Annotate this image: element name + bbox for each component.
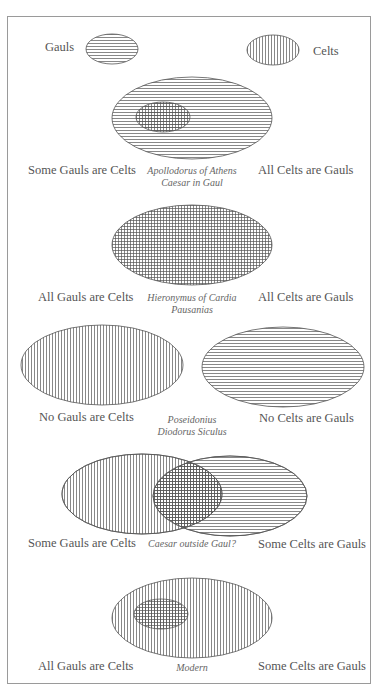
panel1-left-label: Some Gauls are Celts [28, 163, 136, 178]
panel2-sources: Hieronymus of Cardia Pausanias [146, 292, 238, 316]
panel2-source-1: Hieronymus of Cardia [146, 292, 238, 304]
panel2-source-2: Pausanias [146, 304, 238, 316]
panel2-left-label: All Gauls are Celts [38, 290, 133, 305]
panel1-right-label: All Celts are Gauls [258, 163, 353, 178]
panel3-source-2: Diodorus Siculus [146, 426, 238, 438]
panel3-right-label: No Celts are Gauls [259, 411, 354, 426]
gauls-legend-label: Gauls [45, 40, 74, 55]
panel4-source-1: Caesar outside Gaul? [140, 538, 244, 550]
panel5-gauls-ellipse [134, 599, 188, 629]
panel1-source-1: Apollodorus of Athens [146, 165, 238, 177]
panel4-sources: Caesar outside Gaul? [140, 538, 244, 550]
panel3-gauls-ellipse [202, 327, 364, 407]
celts-legend-ellipse [247, 35, 299, 65]
panel5-right-label: Some Celts are Gauls [258, 659, 366, 674]
panel1-celts-ellipse [136, 102, 190, 132]
panel3-sources: Poseidonius Diodorus Siculus [146, 414, 238, 438]
panel4-right-label: Some Celts are Gauls [258, 537, 366, 552]
panel4-left-label: Some Gauls are Celts [28, 536, 136, 551]
panel3-left-label: No Gauls are Celts [39, 410, 134, 425]
panel2-right-label: All Celts are Gauls [258, 290, 353, 305]
panel1-source-2: Caesar in Gaul [146, 177, 238, 189]
panel5-sources: Modern [146, 662, 238, 674]
panel5-source-1: Modern [146, 662, 238, 674]
venn-diagrams [0, 0, 383, 696]
panel2-combined-ellipse [112, 205, 272, 285]
panel3-celts-ellipse [21, 325, 183, 405]
gauls-legend-ellipse [86, 34, 138, 64]
panel3-source-1: Poseidonius [146, 414, 238, 426]
panel5-left-label: All Gauls are Celts [38, 659, 133, 674]
celts-legend-label: Celts [313, 44, 339, 59]
panel1-sources: Apollodorus of Athens Caesar in Gaul [146, 165, 238, 189]
